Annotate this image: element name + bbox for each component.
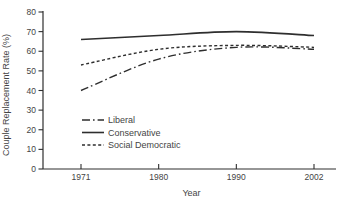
y-axis-title: Couple Replacement Rate (%) bbox=[1, 34, 11, 156]
line-chart-figure: 010203040506070801971198019902002YearCou… bbox=[0, 0, 344, 208]
x-tick-label: 2002 bbox=[305, 172, 324, 182]
y-tick-label: 40 bbox=[27, 86, 37, 96]
y-tick-label: 0 bbox=[31, 164, 36, 174]
y-tick-label: 80 bbox=[27, 7, 37, 17]
x-axis-title: Year bbox=[182, 188, 200, 198]
legend-label: Liberal bbox=[108, 115, 135, 125]
y-tick-label: 70 bbox=[27, 27, 37, 37]
x-tick-label: 1990 bbox=[227, 172, 246, 182]
y-tick-label: 60 bbox=[27, 46, 37, 56]
couple-replacement-rate-chart: 010203040506070801971198019902002YearCou… bbox=[0, 0, 344, 208]
series-line-conservative bbox=[81, 32, 314, 40]
legend-label: Social Democratic bbox=[108, 140, 181, 150]
legend-label: Conservative bbox=[108, 128, 161, 138]
x-tick-label: 1971 bbox=[72, 172, 91, 182]
y-tick-label: 20 bbox=[27, 125, 37, 135]
series-line-liberal bbox=[81, 47, 314, 91]
y-tick-label: 10 bbox=[27, 144, 37, 154]
x-tick-label: 1980 bbox=[149, 172, 168, 182]
y-tick-label: 30 bbox=[27, 105, 37, 115]
y-tick-label: 50 bbox=[27, 66, 37, 76]
series-line-social-democratic bbox=[81, 45, 314, 65]
